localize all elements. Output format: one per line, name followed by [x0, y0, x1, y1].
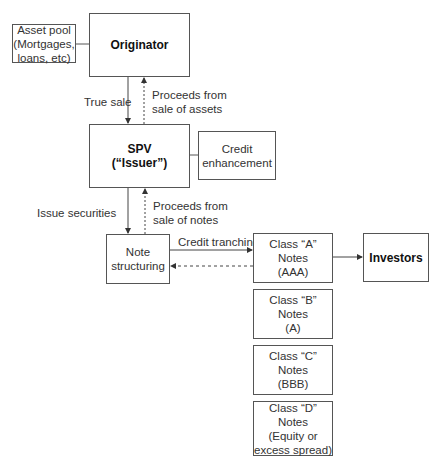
proceeds-assets-line-2: sale of assets	[152, 102, 227, 116]
asset-pool-line-3: loans, etc)	[17, 51, 70, 65]
investors-box: Investors	[363, 233, 429, 282]
class-c-line-2: (BBB)	[278, 377, 309, 391]
spv-issuer-label: (“Issuer”)	[112, 156, 167, 170]
class-b-line-2: (A)	[285, 321, 300, 335]
originator-label: Originator	[110, 38, 168, 52]
proceeds-notes-label: Proceeds from sale of notes	[153, 199, 228, 227]
spv-box: SPV (“Issuer”)	[89, 124, 190, 188]
class-b-line-1: Class “B” Notes	[254, 293, 332, 321]
proceeds-notes-line-1: Proceeds from	[153, 199, 228, 213]
asset-pool-box: Asset pool (Mortgages, loans, etc)	[12, 24, 76, 63]
credit-tranching-label: Credit tranching	[178, 235, 259, 249]
class-d-line-1: Class “D” Notes	[254, 401, 332, 429]
true-sale-label: True sale	[84, 95, 132, 109]
class-a-line-1: Class “A” Notes	[254, 237, 332, 265]
class-a-notes-box: Class “A” Notes (AAA)	[253, 233, 333, 283]
class-d-line-3: excess spread)	[254, 443, 332, 457]
asset-pool-line-1: Asset pool	[17, 23, 71, 37]
class-d-line-2: (Equity or	[268, 429, 317, 443]
credit-enhancement-box: Credit enhancement	[198, 131, 276, 180]
credit-enhancement-line-1: Credit	[222, 142, 253, 156]
proceeds-assets-label: Proceeds from sale of assets	[152, 88, 227, 116]
class-b-notes-box: Class “B” Notes (A)	[253, 289, 333, 339]
originator-box: Originator	[89, 13, 190, 77]
class-c-line-1: Class “C” Notes	[254, 349, 332, 377]
issue-securities-label: Issue securities	[37, 206, 116, 220]
proceeds-notes-line-2: sale of notes	[153, 213, 228, 227]
connector-lines	[0, 0, 438, 459]
asset-pool-line-2: (Mortgages,	[13, 37, 74, 51]
class-a-line-2: (AAA)	[278, 265, 309, 279]
proceeds-assets-line-1: Proceeds from	[152, 88, 227, 102]
investors-label: Investors	[369, 251, 422, 265]
class-d-notes-box: Class “D” Notes (Equity or excess spread…	[253, 401, 333, 456]
spv-label: SPV	[127, 142, 151, 156]
class-c-notes-box: Class “C” Notes (BBB)	[253, 345, 333, 395]
note-structuring-line-1: Note	[126, 245, 150, 259]
credit-enhancement-line-2: enhancement	[202, 156, 272, 170]
note-structuring-box: Note structuring	[106, 234, 170, 284]
note-structuring-line-2: structuring	[111, 259, 165, 273]
